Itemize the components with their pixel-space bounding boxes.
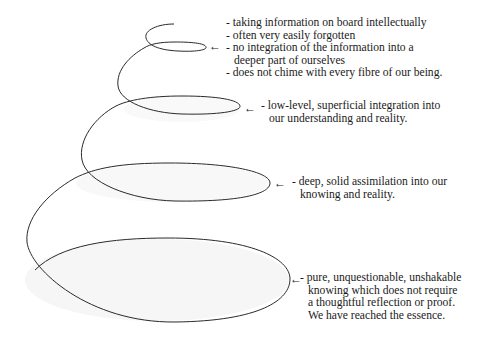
level-4-label: - pure, unquestionable, unshakable knowi…: [300, 272, 461, 322]
level-4-line-1: - pure, unquestionable, unshakable: [300, 272, 461, 285]
level-3-label: - deep, solid assimilation into our know…: [292, 176, 447, 201]
level-1-line-5: - does not chime with every fibre of our…: [226, 67, 442, 80]
level-1-line-3: - no integration of the information into…: [226, 42, 442, 55]
level-4-line-3: a thoughtful reflection or proof.: [300, 297, 461, 310]
level-1-line-1: - taking information on board intellectu…: [226, 17, 442, 30]
level-4-line-4: We have reached the essence.: [300, 310, 461, 323]
arrow-icon: ←: [244, 102, 256, 114]
loop-3-fill: [76, 164, 268, 202]
level-2-line-1: - low-level, superficial integration int…: [261, 100, 440, 113]
level-2-line-2: our understanding and reality.: [261, 113, 440, 126]
arrow-icon: ←: [209, 40, 221, 52]
level-1-label: - taking information on board intellectu…: [226, 17, 442, 80]
loop-2-fill: [124, 96, 240, 122]
arrow-icon: ←: [274, 177, 286, 189]
level-2-label: - low-level, superficial integration int…: [261, 100, 440, 125]
level-3-line-1: - deep, solid assimilation into our: [292, 176, 447, 189]
level-3-line-2: knowing and reality.: [292, 189, 447, 202]
